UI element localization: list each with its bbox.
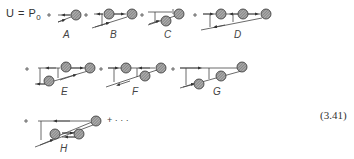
ball-icon (121, 63, 131, 73)
term-label-A: A (63, 29, 70, 40)
ball-icon (104, 9, 114, 19)
term-label-F: F (132, 86, 138, 97)
term-F-diagram (106, 68, 160, 87)
term-label-E: E (61, 86, 68, 97)
ball-icon (161, 16, 171, 26)
ball-icon (216, 9, 226, 19)
diagram-canvas (0, 0, 354, 159)
ball-icon (74, 129, 84, 139)
term-label-D: D (234, 29, 241, 40)
ball-icon (174, 9, 184, 19)
term-label-B: B (110, 29, 117, 40)
ball-icon (216, 71, 226, 81)
term-E-diagram (35, 68, 88, 84)
ball-icon (156, 63, 166, 73)
term-label-H: H (60, 143, 67, 154)
ball-icon (71, 10, 81, 20)
ball-icon (44, 76, 54, 86)
term-G-diagram (180, 68, 245, 88)
plus-sign (24, 119, 28, 123)
ball-icon (61, 62, 71, 72)
term-label-C: C (164, 29, 171, 40)
ball-icon (85, 63, 95, 73)
trailing-ellipsis: + · · · (107, 115, 129, 125)
equation-number: (3.41) (320, 109, 347, 121)
term-A-diagram (58, 15, 71, 22)
ball-icon (237, 62, 247, 72)
ball-icon (91, 116, 101, 126)
term-label-G: G (213, 86, 221, 97)
term-D-diagram (201, 14, 262, 30)
ball-icon (127, 9, 137, 19)
ball-icon (194, 79, 204, 89)
ball-icon (140, 71, 150, 81)
ball-icon (238, 9, 248, 19)
ball-icon (261, 9, 271, 19)
ball-icon (50, 129, 60, 139)
